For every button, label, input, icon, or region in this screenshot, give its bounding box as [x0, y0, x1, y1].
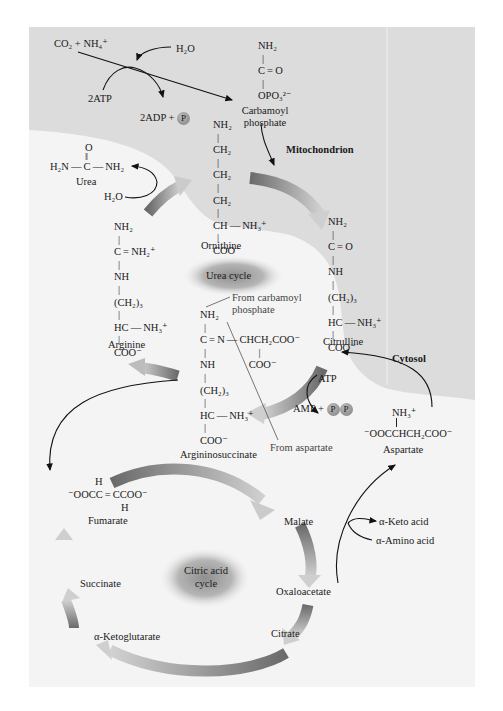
fumarate-name: Fumarate: [88, 515, 128, 527]
carbamoyl-phosphate-structure: NH₂ | C = O | OPO₃²⁻: [258, 40, 291, 103]
atp-2: 2ATP: [88, 93, 112, 105]
amp-text: AMP +: [293, 403, 324, 414]
cytosol-label: Cytosol: [392, 353, 426, 365]
atp-label: ATP: [318, 373, 337, 385]
malate-label: Malate: [284, 516, 313, 528]
mitochondrion-label: Mitochondrion: [286, 144, 354, 156]
citric-cycle-label-1: Citric acid: [180, 565, 232, 577]
succinate-label: Succinate: [80, 578, 121, 590]
from-aspartate-label: From aspartate: [270, 442, 333, 454]
urea-cycle-label: Urea cycle: [206, 270, 251, 282]
alpha-amino-acid-label: α-Amino acid: [376, 535, 434, 547]
phosphate-icon-1: P: [327, 403, 340, 416]
urea-water: H₂O: [104, 191, 123, 203]
from-carbamoyl-label-1: From carbamoyl: [232, 292, 302, 304]
ornithine-name: Ornithine: [201, 240, 241, 252]
alpha-keto-acid-label: α-Keto acid: [379, 516, 429, 528]
citrulline-structure: NH₂ | C = O | NH | (CH₂)₃ | HC — NH₃⁺ | …: [328, 216, 382, 355]
carbamoyl-phosphate-name-1: Carbamoyl: [225, 105, 305, 117]
amp-label: AMP + PP: [293, 403, 353, 416]
ornithine-structure: NH₂ | CH₂ | CH₂ | CH₂ | CH — NH₃⁺ | COO⁻: [213, 119, 267, 258]
oxaloacetate-label: Oxaloacetate: [276, 586, 331, 598]
aspartate-bond: [396, 418, 397, 427]
water-top: H₂O: [176, 43, 195, 55]
fumarate-formula: ⁻OOCC = CCOO⁻: [68, 489, 148, 501]
adp-2-text: 2ADP +: [140, 112, 174, 123]
urea-name: Urea: [76, 176, 96, 188]
aspartate-formula: ⁻OOCCHCH₂COO⁻: [364, 428, 452, 440]
argininosuccinate-structure: NH₂ | C = N — CHCH₂COO⁻ | | NH COO⁻ | (C…: [200, 309, 300, 448]
phosphate-icon: P: [177, 112, 190, 125]
co2-nh4-reactants: CO₂ + NH₄⁺: [54, 38, 108, 50]
citrulline-name: Citrulline: [323, 336, 363, 348]
urea-formula: H₂N — C — NH₂: [50, 161, 124, 173]
citric-cycle-label-2: cycle: [180, 578, 232, 590]
fumarate-h-bottom: H: [121, 502, 129, 514]
argininosuccinate-name: Argininosuccinate: [180, 449, 257, 461]
from-carbamoyl-label-2: phosphate: [232, 304, 275, 316]
arginine-name: Arginine: [108, 339, 145, 351]
aspartate-name: Aspartate: [383, 444, 423, 456]
fumarate-h-top: H: [95, 476, 103, 488]
citrate-label: Citrate: [271, 628, 300, 640]
alpha-ketoglutarate-label: α-Ketoglutarate: [94, 631, 160, 643]
phosphate-icon-2: P: [340, 403, 353, 416]
adp-2: 2ADP + P: [140, 112, 190, 125]
urea-cycle-diagram: Mitochondrion Cytosol Urea cycle Citric …: [0, 0, 503, 711]
